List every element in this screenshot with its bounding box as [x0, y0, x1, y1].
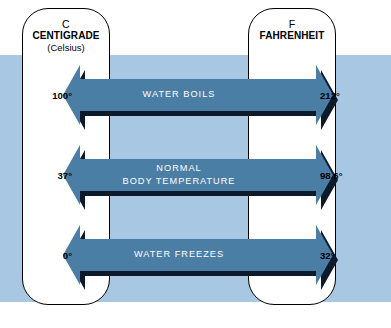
- arrow-row-body-temperature: 37° NORMAL BODY TEMPERATURE 98.6°: [0, 139, 391, 211]
- celsius-name: CENTIGRADE: [23, 30, 109, 42]
- temperature-comparison-diagram: C CENTIGRADE (Celsius) F FAHRENHEIT 100°…: [0, 0, 391, 328]
- celsius-value-water-boils: 100°: [28, 59, 72, 131]
- fahrenheit-value-body-temperature: 98.6°: [320, 139, 370, 211]
- arrow-row-water-boils: 100° WATER BOILS 212°: [0, 59, 391, 131]
- fahrenheit-panel-header: F FAHRENHEIT: [249, 18, 335, 42]
- arrow-row-water-freezes: 0° WATER FREEZES 32°: [0, 219, 391, 291]
- celsius-panel-header: C CENTIGRADE (Celsius): [23, 18, 109, 53]
- fahrenheit-name: FAHRENHEIT: [249, 30, 335, 42]
- fahrenheit-value-water-boils: 212°: [320, 59, 370, 131]
- celsius-value-water-freezes: 0°: [28, 219, 72, 291]
- celsius-subtitle: (Celsius): [23, 42, 109, 53]
- fahrenheit-letter: F: [249, 18, 335, 30]
- fahrenheit-value-water-freezes: 32°: [320, 219, 370, 291]
- celsius-value-body-temperature: 37°: [28, 139, 72, 211]
- celsius-letter: C: [23, 18, 109, 30]
